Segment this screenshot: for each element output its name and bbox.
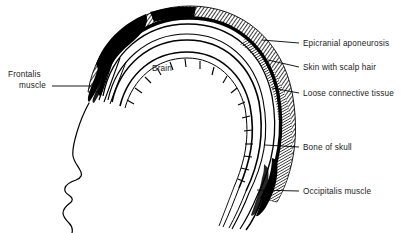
- anatomy-diagram: [0, 0, 413, 233]
- label-bone-of-skull: Bone of skull: [303, 143, 352, 153]
- label-epicranial-aponeurosis: Epicranial aponeurosis: [303, 39, 389, 49]
- label-brain: Brain: [152, 64, 172, 73]
- label-skin-with-scalp-hair: Skin with scalp hair: [303, 63, 376, 73]
- scalp-cross-section-figure: Brain Epicranial aponeurosis Skin with s…: [0, 0, 413, 233]
- label-loose-connective-tissue: Loose connective tissue: [303, 89, 394, 99]
- label-occipitalis-muscle: Occipitalis muscle: [303, 187, 371, 197]
- facial-profile: [63, 103, 89, 233]
- label-frontalis-muscle-line2: muscle: [19, 81, 46, 91]
- label-frontalis-muscle-line1: Frontalis: [8, 70, 41, 80]
- bone-of-skull-layer: [112, 40, 261, 191]
